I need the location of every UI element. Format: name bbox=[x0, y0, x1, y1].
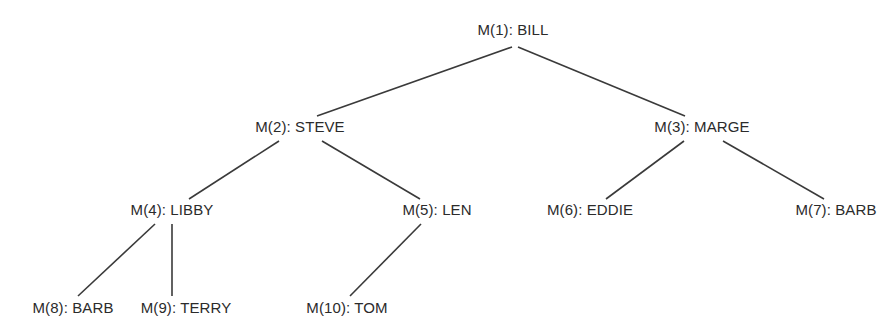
tree-node-m4[interactable]: M(4): LIBBY bbox=[131, 201, 214, 219]
tree-diagram: M(1): BILLM(2): STEVEM(3): MARGEM(4): LI… bbox=[0, 0, 893, 330]
tree-edge-m2-m5 bbox=[322, 141, 420, 199]
tree-edge-m1-m3 bbox=[518, 47, 685, 116]
tree-node-m9[interactable]: M(9): TERRY bbox=[141, 299, 232, 317]
tree-node-m10[interactable]: M(10): TOM bbox=[306, 299, 387, 317]
tree-edge-m2-m4 bbox=[189, 141, 279, 199]
tree-node-m7[interactable]: M(7): BARB bbox=[795, 201, 876, 219]
edge-layer bbox=[0, 0, 893, 330]
tree-node-m6[interactable]: M(6): EDDIE bbox=[547, 201, 633, 219]
tree-node-m1[interactable]: M(1): BILL bbox=[477, 21, 548, 39]
tree-node-m5[interactable]: M(5): LEN bbox=[402, 201, 471, 219]
tree-edge-m3-m7 bbox=[723, 141, 824, 199]
tree-edge-m3-m6 bbox=[606, 141, 684, 199]
tree-edge-m5-m10 bbox=[350, 224, 421, 296]
tree-edge-m4-m8 bbox=[78, 224, 155, 296]
tree-node-m8[interactable]: M(8): BARB bbox=[32, 299, 113, 317]
tree-edge-m1-m2 bbox=[317, 47, 512, 116]
tree-node-m3[interactable]: M(3): MARGE bbox=[654, 118, 749, 136]
tree-node-m2[interactable]: M(2): STEVE bbox=[255, 118, 344, 136]
